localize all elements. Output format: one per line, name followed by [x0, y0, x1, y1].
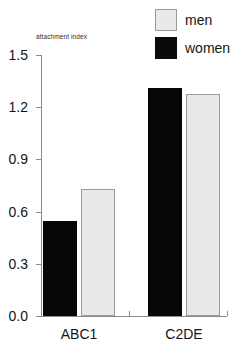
y-tick-label-0-9: 0.9 — [9, 152, 28, 166]
y-tick-label-0-3: 0.3 — [9, 257, 28, 271]
y-tick-label-0-0: 0.0 — [9, 309, 28, 323]
bar-c2de-men — [186, 94, 220, 316]
y-tick-label-1-2: 1.2 — [9, 100, 28, 114]
y-tick-1-5: 1.5 — [36, 55, 41, 56]
plot-area: 1.5 1.2 0.9 0.6 0.3 0.0 ABC1 C2DE — [41, 55, 227, 316]
y-axis-title: attachment index — [36, 33, 87, 41]
bar-abc1-women — [43, 221, 77, 316]
y-tick-1-2: 1.2 — [36, 107, 41, 108]
legend-label-women: women — [185, 41, 230, 55]
x-tick-group-separator — [129, 311, 130, 316]
y-tick-0-3: 0.3 — [36, 264, 41, 265]
y-tick-0-0: 0.0 — [36, 316, 41, 317]
y-tick-label-0-6: 0.6 — [9, 205, 28, 219]
bar-c2de-women — [148, 88, 182, 316]
legend-label-men: men — [185, 13, 212, 27]
x-axis-label-c2de: C2DE — [165, 327, 202, 341]
bar-abc1-men — [81, 189, 115, 316]
legend-item-men: men — [155, 6, 245, 34]
y-tick-label-1-5: 1.5 — [9, 48, 28, 62]
x-tick-right-end — [227, 311, 228, 316]
chart-legend: men women — [155, 6, 245, 62]
x-axis-label-abc1: ABC1 — [61, 327, 98, 341]
legend-swatch-men-icon — [155, 9, 177, 31]
y-tick-0-6: 0.6 — [36, 212, 41, 213]
x-axis-line — [41, 316, 227, 317]
bar-chart: men women attachment index 1.5 1.2 0.9 0… — [0, 0, 248, 348]
y-tick-0-9: 0.9 — [36, 159, 41, 160]
y-axis-line — [41, 55, 42, 316]
